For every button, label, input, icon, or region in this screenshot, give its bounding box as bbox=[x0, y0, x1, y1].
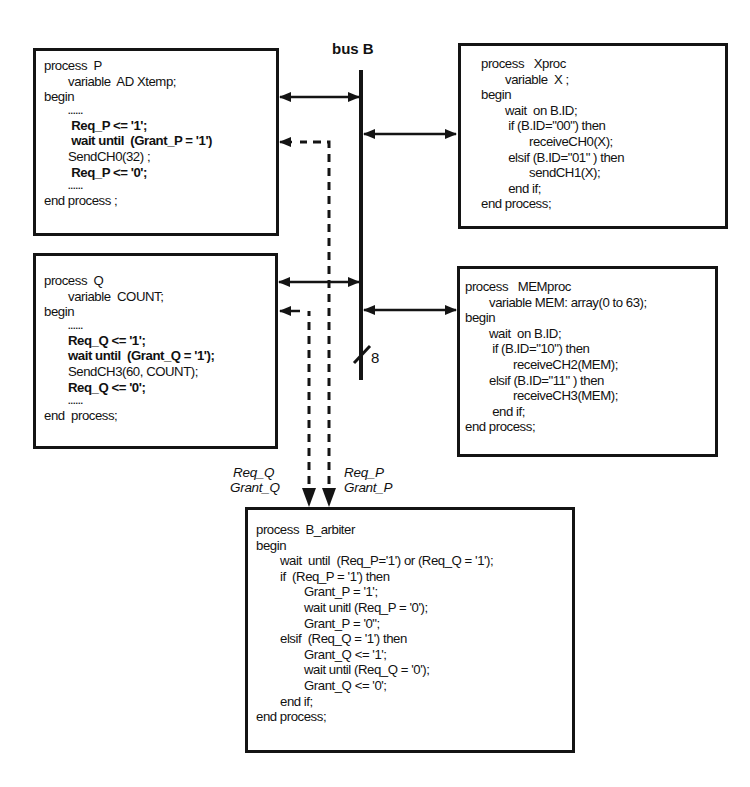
code-line: Grant_Q <= '1'; bbox=[256, 647, 493, 663]
code-line: end process; bbox=[44, 408, 214, 424]
process-xproc-code: process Xprocvariable X ;beginwait on B.… bbox=[481, 56, 624, 212]
code-line: begin bbox=[465, 310, 647, 326]
code-line: end process; bbox=[256, 709, 493, 725]
signal-label-grant-q: Grant_Q bbox=[230, 480, 280, 495]
code-ellipsis: ...... bbox=[44, 320, 214, 333]
process-q-box: process Qvariable COUNT;begin......Req_Q… bbox=[33, 253, 278, 449]
code-line: variable AD Xtemp; bbox=[44, 74, 212, 90]
code-line: SendCH0(32) ; bbox=[44, 149, 212, 165]
code-line: end if; bbox=[465, 404, 647, 420]
code-line: sendCH1(X); bbox=[481, 165, 624, 181]
code-line: Grant_P = '1'; bbox=[256, 584, 493, 600]
code-line: Grant_Q <= '0'; bbox=[256, 678, 493, 694]
code-ellipsis: ...... bbox=[44, 180, 212, 193]
code-line: elsif (B.ID="11" ) then bbox=[465, 373, 647, 389]
code-line: process B_arbiter bbox=[256, 522, 493, 538]
code-ellipsis: ...... bbox=[44, 395, 214, 408]
code-line: wait on B.ID; bbox=[481, 103, 624, 119]
code-line: begin bbox=[256, 538, 493, 554]
code-line: variable MEM: array(0 to 63); bbox=[465, 295, 647, 311]
code-line: Req_Q <= '1'; bbox=[44, 333, 214, 349]
code-line: wait until (Req_P='1') or (Req_Q = '1'); bbox=[256, 553, 493, 569]
code-line: Grant_P = '0"; bbox=[256, 616, 493, 632]
code-line: end if; bbox=[256, 694, 493, 710]
code-line: wait until (Grant_P = '1') bbox=[44, 133, 212, 149]
code-line: process Xproc bbox=[481, 56, 624, 72]
code-line: Req_P <= '0'; bbox=[44, 165, 212, 181]
signal-label-grant-p: Grant_P bbox=[344, 480, 392, 495]
code-line: if (Req_P = '1') then bbox=[256, 569, 493, 585]
bus-width-label: 8 bbox=[371, 349, 379, 366]
code-line: elsif (B.ID="01" ) then bbox=[481, 150, 624, 166]
process-memproc-code: process MEMprocvariable MEM: array(0 to … bbox=[465, 279, 647, 435]
bus-title: bus B bbox=[332, 40, 374, 57]
code-line: wait until (Grant_Q = '1'); bbox=[44, 348, 214, 364]
code-line: if (B.ID="00") then bbox=[481, 118, 624, 134]
arrow-req-q-to-arbiter bbox=[302, 488, 316, 507]
code-line: receiveCH3(MEM); bbox=[465, 388, 647, 404]
code-line: end process; bbox=[481, 196, 624, 212]
dashed-link-p bbox=[300, 142, 329, 498]
signal-label-req-p: Req_P bbox=[344, 465, 384, 480]
code-line: variable X ; bbox=[481, 72, 624, 88]
code-line: elsif (Req_Q = '1') then bbox=[256, 631, 493, 647]
process-q-code: process Qvariable COUNT;begin......Req_Q… bbox=[44, 273, 214, 424]
code-line: Req_Q <= '0'; bbox=[44, 380, 214, 396]
code-line: begin bbox=[44, 304, 214, 320]
code-line: SendCH3(60, COUNT); bbox=[44, 364, 214, 380]
signal-label-req-q: Req_Q bbox=[233, 465, 274, 480]
code-line: if (B.ID="10") then bbox=[465, 341, 647, 357]
process-p-code: process Pvariable AD Xtemp;begin...... R… bbox=[44, 58, 212, 209]
code-line: process Q bbox=[44, 273, 214, 289]
process-xproc-box: process Xprocvariable X ;beginwait on B.… bbox=[458, 43, 728, 229]
code-line: process MEMproc bbox=[465, 279, 647, 295]
code-line: end if; bbox=[481, 181, 624, 197]
code-line: wait until (Req_Q = '0'); bbox=[256, 662, 493, 678]
code-line: wait on B.ID; bbox=[465, 326, 647, 342]
code-line: receiveCH2(MEM); bbox=[465, 357, 647, 373]
arrow-req-p-to-arbiter bbox=[322, 488, 336, 507]
process-p-box: process Pvariable AD Xtemp;begin...... R… bbox=[33, 48, 279, 236]
code-line: end process ; bbox=[44, 193, 212, 209]
code-ellipsis: ...... bbox=[44, 105, 212, 118]
process-arbiter-box: process B_arbiterbeginwait until (Req_P=… bbox=[245, 507, 575, 753]
code-line: wait unitl (Req_P = '0'); bbox=[256, 600, 493, 616]
code-line: begin bbox=[44, 89, 212, 105]
code-line: Req_P <= '1'; bbox=[44, 118, 212, 134]
code-line: process P bbox=[44, 58, 212, 74]
code-line: receiveCH0(X); bbox=[481, 134, 624, 150]
code-line: variable COUNT; bbox=[44, 289, 214, 305]
process-arbiter-code: process B_arbiterbeginwait until (Req_P=… bbox=[256, 522, 493, 725]
process-memproc-box: process MEMprocvariable MEM: array(0 to … bbox=[457, 266, 718, 457]
code-line: end process; bbox=[465, 419, 647, 435]
code-line: begin bbox=[481, 87, 624, 103]
